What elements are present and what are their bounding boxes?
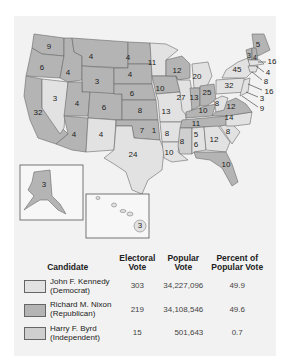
label-ga: 12 (210, 135, 219, 144)
electoral-vote: 303 (115, 275, 159, 299)
swatch-kennedy (24, 280, 46, 293)
popular-vote: 34,227,096 (159, 275, 207, 299)
label-fl: 10 (222, 160, 231, 169)
label-sd: 4 (128, 70, 133, 79)
legend-row-nixon: Richard M. Nixon(Republican) 219 34,108,… (20, 298, 267, 322)
label-wa: 9 (47, 42, 52, 51)
label-md: 9 (260, 104, 265, 113)
label-pa: 32 (225, 81, 234, 90)
label-ut: 4 (75, 99, 80, 108)
legend-row-kennedy: John F. Kennedy(Democrat) 303 34,227,096… (20, 275, 267, 299)
label-ca: 32 (34, 108, 43, 117)
label-al-kennedy: 5 (194, 130, 199, 139)
percent-vote: 49.9 (207, 275, 267, 299)
label-ak: 3 (42, 180, 47, 189)
percent-vote: 49.6 (207, 298, 267, 322)
label-oh: 25 (203, 88, 212, 97)
legend-row-byrd: Harry F. Byrd(Independent) 15 501,643 0.… (20, 322, 267, 346)
label-ma: 16 (268, 57, 277, 66)
label-wv: 8 (215, 99, 220, 108)
label-nv: 3 (53, 94, 58, 103)
results-legend: Candidate ElectoralVote PopularVote Perc… (20, 254, 267, 346)
ne-callout-labels: 16 4 8 16 3 9 (260, 57, 277, 113)
label-nd: 4 (126, 53, 131, 62)
label-va: 12 (227, 102, 236, 111)
popular-vote: 34,108,546 (159, 298, 207, 322)
swatch-nixon (24, 304, 46, 317)
state-massachusetts (248, 60, 264, 66)
us-electoral-map: 9 6 32 3 4 4 3 4 6 4 4 4 4 6 8 7 1 24 11… (0, 0, 284, 250)
header-percent: Percent ofPopular Vote (207, 254, 267, 275)
label-nj: 16 (265, 87, 274, 96)
percent-vote: 0.7 (207, 322, 267, 346)
label-mi: 20 (193, 72, 202, 81)
candidate-party: (Independent) (50, 333, 100, 342)
candidate-name: Harry F. Byrd (50, 324, 97, 333)
label-ks: 8 (138, 106, 143, 115)
electoral-vote: 15 (115, 322, 159, 346)
label-vt: 3 (247, 52, 251, 59)
label-ms: 8 (180, 137, 185, 146)
label-mn: 11 (148, 58, 157, 67)
label-al-byrd: 6 (194, 140, 199, 149)
label-co: 6 (102, 103, 107, 112)
state-ct-ri (248, 66, 258, 72)
label-sc: 8 (226, 127, 231, 136)
label-ct: 8 (264, 77, 269, 86)
label-id: 4 (66, 68, 71, 77)
candidate-name: John F. Kennedy (50, 277, 110, 286)
label-tn: 11 (192, 119, 201, 128)
label-ky: 10 (199, 106, 208, 115)
label-nc: 14 (225, 113, 234, 122)
swatch-byrd (24, 327, 46, 340)
header-candidate: Candidate (20, 254, 115, 275)
label-il: 27 (177, 93, 186, 102)
label-in: 13 (190, 93, 199, 102)
label-ar: 8 (165, 129, 170, 138)
label-mt: 4 (89, 52, 94, 61)
candidate-party: (Democrat) (50, 286, 90, 295)
state-florida (194, 152, 238, 186)
label-wy: 3 (95, 77, 100, 86)
label-or: 6 (40, 63, 45, 72)
label-ok-byrd: 1 (152, 126, 157, 135)
candidate-name: Richard M. Nixon (50, 300, 111, 309)
candidate-party: (Republican) (50, 309, 95, 318)
label-ny: 45 (233, 65, 242, 74)
label-me: 5 (256, 40, 261, 49)
label-ne: 6 (130, 89, 135, 98)
label-az: 4 (72, 130, 77, 139)
label-nm: 4 (99, 130, 104, 139)
label-ri: 4 (266, 68, 271, 77)
header-electoral: ElectoralVote (115, 254, 159, 275)
label-tx: 24 (129, 150, 138, 159)
popular-vote: 501,643 (159, 322, 207, 346)
label-ok-nixon: 7 (140, 126, 145, 135)
label-de: 3 (260, 94, 265, 103)
electoral-vote: 219 (115, 298, 159, 322)
label-la: 10 (165, 148, 174, 157)
label-mo: 13 (162, 107, 171, 116)
label-nh: 4 (253, 54, 257, 61)
header-popular: PopularVote (159, 254, 207, 275)
label-ia: 10 (156, 84, 165, 93)
label-wi: 12 (173, 66, 182, 75)
label-hi: 3 (138, 221, 143, 230)
